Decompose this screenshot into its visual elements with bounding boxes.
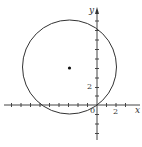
- chart-canvas: y x 0 2 2: [0, 0, 142, 147]
- y-axis-arrow-icon: [95, 7, 99, 14]
- x-tick-label-2: 2: [113, 107, 118, 116]
- origin-label: 0: [90, 106, 95, 115]
- x-axis-label: x: [135, 105, 140, 115]
- y-axis-label: y: [88, 5, 95, 15]
- y-tick-label-2: 2: [87, 82, 92, 91]
- center-point: [68, 66, 71, 69]
